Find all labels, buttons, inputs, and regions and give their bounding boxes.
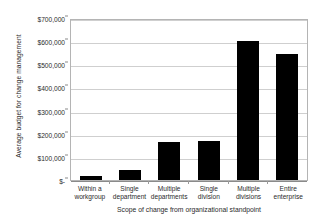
x-axis-category-label: Single department (110, 185, 150, 207)
y-axis-tick-label: $- (19, 178, 65, 185)
bar[interactable] (158, 142, 180, 180)
y-axis-tick-mark (65, 178, 68, 179)
x-axis-category-label: Multiple divisions (229, 185, 269, 207)
y-axis-tick-mark (65, 154, 68, 155)
x-axis-title: Scope of change from organizational stan… (70, 206, 308, 213)
bar-slot (71, 20, 110, 180)
y-axis-tick-mark (65, 108, 68, 109)
x-axis-category-label: Entire enterprise (268, 185, 308, 207)
bar[interactable] (119, 170, 141, 180)
y-axis-tick-label: $500,000 (19, 62, 65, 69)
bar[interactable] (198, 141, 220, 180)
plot-area (70, 19, 308, 181)
y-axis-tick-label: $400,000 (19, 85, 65, 92)
y-axis-tick-label: $700,000 (19, 16, 65, 23)
bar-slot (228, 20, 267, 180)
y-axis-tick-mark (65, 62, 68, 63)
bar-slot (189, 20, 228, 180)
y-axis-tick-mark (65, 39, 68, 40)
y-axis-tick-label: $300,000 (19, 108, 65, 115)
y-axis-tick-mark (65, 85, 68, 86)
bar-slot (110, 20, 149, 180)
bars-layer (71, 20, 307, 180)
x-axis-category-label: Single division (189, 185, 229, 207)
y-axis-tick-label: $200,000 (19, 131, 65, 138)
y-axis-tick-mark (65, 131, 68, 132)
bar[interactable] (276, 54, 298, 180)
y-axis-tick-mark (65, 16, 68, 17)
x-axis-category-label: Multiple departments (149, 185, 189, 207)
bar-slot (268, 20, 307, 180)
y-axis-tick-label: $600,000 (19, 39, 65, 46)
bar[interactable] (237, 41, 259, 180)
x-axis-category-labels: Within a workgroupSingle departmentMulti… (70, 185, 308, 207)
bar[interactable] (80, 176, 102, 180)
y-axis-tick-labels: $-$100,000$200,000$300,000$400,000$500,0… (22, 19, 68, 181)
x-axis-category-label: Within a workgroup (70, 185, 110, 207)
y-axis-tick-label: $100,000 (19, 154, 65, 161)
bar-slot (150, 20, 189, 180)
bar-chart: Average budget for change management $-$… (0, 0, 325, 224)
